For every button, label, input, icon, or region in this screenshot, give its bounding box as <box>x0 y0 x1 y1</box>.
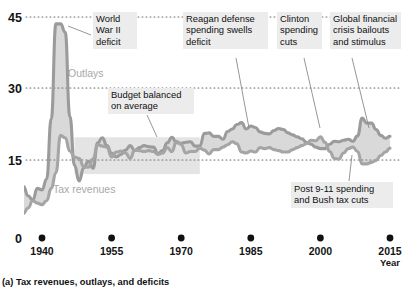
series-label-outlays: Outlays <box>68 67 104 79</box>
x-tick-label-1985: 1985 <box>239 245 263 257</box>
x-tick-dot-1970 <box>178 235 185 242</box>
annotation-clinton-spending-cuts: Clinton spending cuts <box>277 12 322 49</box>
y-tick-label-45: 45 <box>8 11 22 25</box>
y-tick-label-30: 30 <box>8 82 22 96</box>
x-axis-title: Year <box>380 257 400 268</box>
series-line-outlays <box>14 24 390 200</box>
annotation-reagan-defense: Reagan defense spending swells deficit <box>183 12 268 49</box>
annotation-wwii-deficit: World War II deficit <box>93 12 137 49</box>
leader-line-clinton <box>304 58 320 128</box>
x-axis-ticks: 194019551970198520002015 <box>30 235 402 257</box>
leader-line-gfc <box>352 58 369 128</box>
x-tick-dot-1955 <box>108 235 115 242</box>
x-tick-label-2015: 2015 <box>378 245 402 257</box>
x-tick-dot-2000 <box>317 235 324 242</box>
figure-caption: (a) Tax revenues, outlays, and deficits <box>2 277 169 287</box>
x-tick-label-2000: 2000 <box>309 245 333 257</box>
annotation-post-911-spending: Post 9-11 spending and Bush tax cuts <box>291 182 393 208</box>
x-tick-dot-1985 <box>247 235 254 242</box>
x-tick-label-1955: 1955 <box>100 245 124 257</box>
x-tick-label-1940: 1940 <box>30 245 54 257</box>
figure-tax-revenues-outlays-deficits: 0153045 194019551970198520002015 Outlays… <box>0 0 403 287</box>
x-tick-dot-2015 <box>387 235 394 242</box>
x-tick-dot-1940 <box>39 235 46 242</box>
y-axis-tick-labels: 0153045 <box>8 11 22 246</box>
y-tick-label-0: 0 <box>15 232 22 246</box>
x-tick-label-1970: 1970 <box>170 245 194 257</box>
leader-line-reagan <box>236 58 249 128</box>
y-tick-label-15: 15 <box>8 154 22 168</box>
leader-line-post911 <box>349 155 352 181</box>
leader-line-budget-balanced <box>147 115 157 137</box>
annotation-budget-balanced: Budget balanced on average <box>108 88 194 114</box>
series-label-tax-revenues: Tax revenues <box>53 183 115 195</box>
leader-line-wwii <box>68 26 91 35</box>
annotation-global-financial-crisis: Global financial crisis bailouts and sti… <box>330 12 401 49</box>
